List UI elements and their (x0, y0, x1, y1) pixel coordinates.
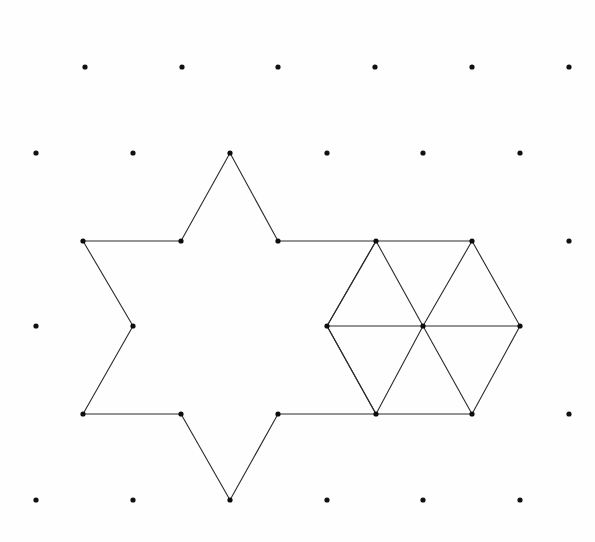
figure-vertex (227, 150, 232, 155)
six-pointed-star-edge (181, 414, 230, 500)
dot-lattice-figure (0, 0, 595, 542)
figure-canvas (0, 0, 595, 542)
figure-vertex (517, 323, 522, 328)
lattice-dot (324, 497, 329, 502)
triangulated-hexagon-interior-edge (376, 326, 423, 414)
figure-vertex (469, 411, 474, 416)
lattice-dot (566, 411, 571, 416)
triangulated-hexagon-edge (327, 326, 376, 414)
figure-vertex (275, 238, 280, 243)
triangulated-hexagon-edge (472, 241, 520, 326)
figure-vertex (80, 411, 85, 416)
figure-vertex (324, 323, 329, 328)
figure-vertex (373, 411, 378, 416)
lattice-dot (324, 150, 329, 155)
lattice-dot (517, 150, 522, 155)
lattice-dot-group (33, 64, 571, 502)
lattice-dot (275, 64, 280, 69)
lattice-dot (420, 150, 425, 155)
figure-vertex (178, 411, 183, 416)
six-pointed-star-edge (181, 153, 230, 241)
figure-vertex (469, 238, 474, 243)
lattice-dot (566, 64, 571, 69)
figure-vertex (275, 411, 280, 416)
lattice-dot (517, 497, 522, 502)
six-pointed-star-edge (83, 241, 133, 326)
lattice-dot (566, 238, 571, 243)
lattice-dot (372, 64, 377, 69)
lattice-dot (33, 150, 38, 155)
figure-vertex (80, 238, 85, 243)
figure-vertex (130, 323, 135, 328)
lattice-dot (82, 64, 87, 69)
triangulated-hexagon-interior-edge (423, 326, 472, 414)
triangulated-hexagon-edge (327, 241, 376, 326)
lattice-dot (130, 497, 135, 502)
triangulated-hexagon-interior-edge (376, 241, 423, 326)
figure-vertex (227, 497, 232, 502)
triangulated-hexagon-edge (472, 326, 520, 414)
lattice-dot (33, 497, 38, 502)
lattice-dot (179, 64, 184, 69)
lattice-dot (130, 150, 135, 155)
lattice-dot (469, 64, 474, 69)
lattice-dot (33, 323, 38, 328)
figure-vertex (373, 238, 378, 243)
six-pointed-star-edge (230, 414, 278, 500)
six-pointed-star-edge (83, 326, 133, 414)
triangulated-hexagon-interior-edge (423, 241, 472, 326)
figure-vertex (178, 238, 183, 243)
figure-vertex (420, 323, 425, 328)
figure-edge-group (83, 153, 520, 500)
six-pointed-star-edge (230, 153, 278, 241)
lattice-dot (420, 497, 425, 502)
